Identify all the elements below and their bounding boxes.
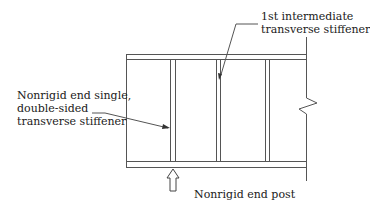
label-line: transverse stiffener [261,23,370,36]
arrowhead-end-stiffener [162,124,170,129]
intermediate-stiffener-2 [266,60,270,161]
label-first-intermediate: 1st intermediate transverse stiffener [261,10,370,36]
bottom-flange [126,162,306,168]
label-end-stiffener: Nonrigid end single, double-sided transv… [17,89,131,128]
leader-first-intermediate [220,24,258,78]
break-line [299,37,317,181]
top-flange [126,55,306,60]
label-line: transverse stiffener [17,115,131,128]
label-line: double-sided [17,102,131,115]
end-stiffener [171,60,176,161]
label-end-post: Nonrigid end post [194,188,295,201]
end-post-arrow-icon [167,169,179,191]
label-line: 1st intermediate [261,10,370,23]
label-line: Nonrigid end single, [17,89,131,102]
